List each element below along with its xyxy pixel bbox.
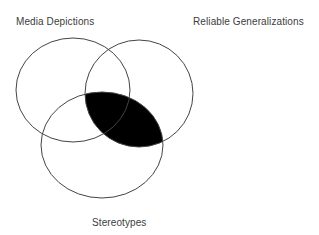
highlighted-intersection-region [41, 92, 163, 198]
label-media-depictions: Media Depictions [16, 16, 94, 28]
venn-diagram [0, 0, 319, 235]
label-stereotypes: Stereotypes [92, 217, 146, 229]
label-reliable-generalizations: Reliable Generalizations [193, 16, 304, 28]
